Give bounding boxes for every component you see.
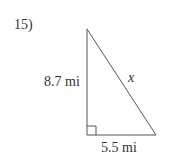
- horizontal-leg-label: 5.5 mi: [101, 141, 137, 155]
- right-triangle: [0, 0, 173, 165]
- right-angle-marker: [87, 126, 96, 135]
- hypotenuse-label: x: [128, 71, 134, 85]
- vertical-leg-label: 8.7 mi: [44, 75, 80, 89]
